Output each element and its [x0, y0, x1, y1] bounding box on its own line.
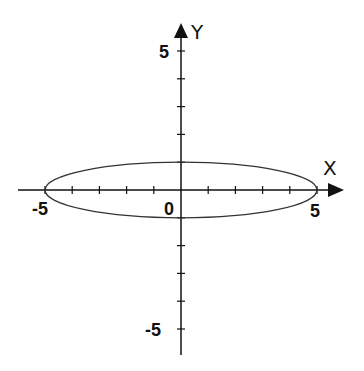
y-axis-label: Y: [191, 22, 203, 42]
y-tick-label-neg5: -5: [145, 321, 161, 339]
origin-label: 0: [164, 200, 174, 218]
y-tick-label-5: 5: [159, 43, 169, 61]
x-axis-label: X: [323, 158, 337, 178]
y-axis-arrow-icon: [174, 23, 188, 38]
x-tick-label-neg5: -5: [32, 200, 48, 218]
x-tick-label-5: 5: [310, 202, 320, 220]
x-axis-arrow-icon: [328, 183, 344, 197]
ellipse-plot: Y X 5 -5 -5 5 0: [0, 0, 364, 371]
plot-canvas: [0, 0, 364, 371]
